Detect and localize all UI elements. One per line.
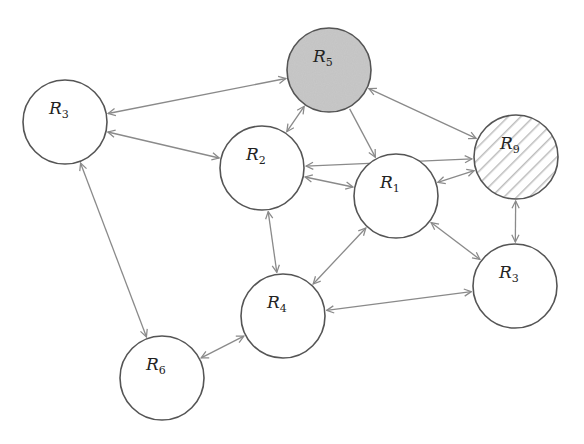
edge-r3_left-r2 xyxy=(108,132,219,158)
edge-r2-r1 xyxy=(305,177,353,187)
edge-r3_left-r6 xyxy=(81,163,147,337)
edge-r9-r1 xyxy=(438,171,474,183)
node-r1: R1 xyxy=(354,154,438,238)
node-r2: R2 xyxy=(220,126,304,210)
node-circle xyxy=(287,28,371,112)
node-r6: R6 xyxy=(120,336,204,420)
node-circle xyxy=(241,274,325,358)
edge-r1-r4 xyxy=(313,228,366,284)
edge-r3_left-r5 xyxy=(108,79,286,114)
edge-r4-r3_right xyxy=(327,292,472,311)
node-circle xyxy=(220,126,304,210)
node-r5: R5 xyxy=(287,28,371,112)
node-r3-right: R3 xyxy=(473,244,557,328)
node-circle xyxy=(473,244,557,328)
edge-r5-r1 xyxy=(350,109,376,157)
edge-r6-r4 xyxy=(201,336,244,358)
network-diagram: R3R5R9R2R1R3R4R6 xyxy=(0,0,584,444)
node-circle xyxy=(120,336,204,420)
edge-r5-r9 xyxy=(369,89,476,139)
edge-r5-r2 xyxy=(287,106,304,131)
node-circle xyxy=(23,80,107,164)
edge-r1-r3_right xyxy=(431,223,480,260)
node-r3-left: R3 xyxy=(23,80,107,164)
node-circle xyxy=(354,154,438,238)
node-r9: R9 xyxy=(474,115,558,199)
edge-r2-r4 xyxy=(268,212,277,273)
node-circle xyxy=(474,115,558,199)
node-r4: R4 xyxy=(241,274,325,358)
